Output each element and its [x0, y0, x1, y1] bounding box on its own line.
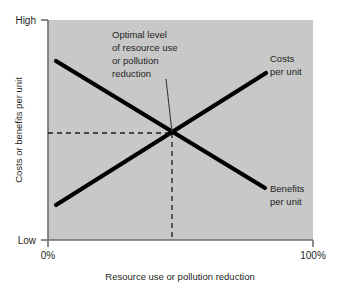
- annotation-line-3: or pollution: [112, 55, 158, 66]
- chart-svg: High Low 0% 100% Resource use or polluti…: [0, 0, 357, 289]
- y-axis-high-label: High: [15, 15, 36, 26]
- annotation-line-1: Optimal level: [112, 29, 167, 40]
- benefits-label-line-1: Benefits: [270, 183, 305, 194]
- x-axis-start-label: 0%: [41, 250, 56, 261]
- chart-figure: High Low 0% 100% Resource use or polluti…: [0, 0, 357, 289]
- costs-label-line-1: Costs: [270, 53, 295, 64]
- x-axis-title: Resource use or pollution reduction: [105, 271, 254, 282]
- costs-label-line-2: per unit: [270, 66, 302, 77]
- benefits-label-line-2: per unit: [270, 196, 302, 207]
- y-axis-title: Costs or benefits per unit: [13, 77, 24, 183]
- annotation-line-2: of resource use: [112, 42, 177, 53]
- x-axis-end-label: 100%: [300, 250, 326, 261]
- y-axis-low-label: Low: [18, 235, 37, 246]
- annotation-line-4: reduction: [112, 68, 151, 79]
